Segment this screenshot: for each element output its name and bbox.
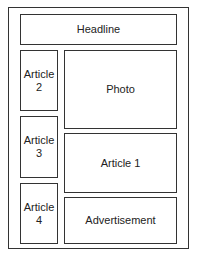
article-2-box: Article 2	[20, 50, 58, 111]
advertisement-box: Advertisement	[64, 197, 177, 244]
article-3-box: Article 3	[20, 116, 58, 178]
headline-label: Headline	[77, 23, 120, 36]
photo-label: Photo	[106, 83, 135, 96]
photo-box: Photo	[64, 50, 177, 129]
advertisement-label: Advertisement	[85, 214, 155, 227]
article-4-box: Article 4	[20, 183, 58, 244]
headline-box: Headline	[20, 14, 177, 45]
article-1-label: Article 1	[101, 157, 141, 170]
article-1-box: Article 1	[64, 133, 177, 193]
article-4-number: 4	[24, 214, 55, 227]
article-2-number: 2	[24, 81, 55, 94]
article-2-label: Article	[24, 68, 55, 81]
article-3-number: 3	[24, 147, 55, 160]
article-3-label: Article	[24, 134, 55, 147]
article-4-label: Article	[24, 201, 55, 214]
